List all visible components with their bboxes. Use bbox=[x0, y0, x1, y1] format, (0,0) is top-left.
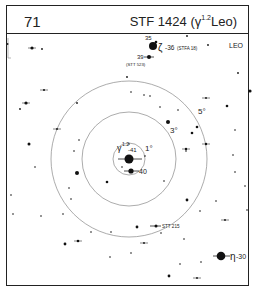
star-39[interactable] bbox=[144, 55, 154, 59]
field-star bbox=[221, 219, 229, 221]
field-star bbox=[232, 154, 234, 156]
field-star bbox=[193, 277, 201, 279]
field-star bbox=[179, 263, 181, 265]
field-star bbox=[53, 128, 61, 130]
field-star bbox=[40, 215, 42, 217]
field-star bbox=[126, 76, 128, 78]
field-star bbox=[74, 240, 82, 243]
field-star bbox=[28, 46, 36, 49]
ring-label-3: 3° bbox=[170, 126, 178, 135]
svg-text:(STT 523): (STT 523) bbox=[126, 62, 146, 67]
field-star bbox=[234, 129, 236, 131]
field-star bbox=[41, 48, 43, 50]
stt215-star[interactable] bbox=[150, 225, 161, 228]
eta-label: η bbox=[230, 251, 236, 262]
field-star bbox=[166, 120, 170, 124]
star-map: γ 1.2 -41 40 ζ -36 (STFA 18) 35 39 (STT … bbox=[0, 0, 253, 290]
field-star bbox=[182, 148, 190, 150]
field-star bbox=[149, 95, 151, 97]
field-star bbox=[73, 150, 75, 152]
edge-bracket bbox=[8, 38, 11, 58]
field-star bbox=[121, 166, 123, 168]
field-star bbox=[196, 126, 199, 129]
field-star bbox=[246, 209, 248, 211]
svg-text:35: 35 bbox=[145, 35, 152, 41]
field-star bbox=[75, 171, 79, 175]
field-star bbox=[226, 105, 229, 108]
field-star bbox=[191, 132, 194, 135]
field-star bbox=[168, 275, 171, 278]
constellation-label: LEO bbox=[229, 42, 244, 49]
field-star bbox=[199, 210, 201, 212]
field-star bbox=[22, 101, 30, 104]
field-star bbox=[163, 180, 165, 182]
field-star bbox=[136, 226, 139, 229]
ring-label-1: 1° bbox=[145, 144, 153, 153]
field-star bbox=[130, 91, 132, 93]
field-star bbox=[244, 185, 246, 187]
field-star bbox=[200, 261, 202, 263]
field-star bbox=[64, 243, 67, 246]
field-star bbox=[248, 89, 251, 92]
field-star bbox=[144, 155, 146, 157]
field-star bbox=[202, 143, 210, 145]
field-star bbox=[110, 231, 112, 233]
field-star bbox=[202, 97, 210, 99]
field-star bbox=[28, 143, 31, 146]
zeta-label: ζ bbox=[158, 42, 163, 54]
svg-text:-30: -30 bbox=[236, 253, 246, 260]
svg-text:39: 39 bbox=[137, 54, 144, 60]
field-star bbox=[185, 150, 187, 152]
field-star bbox=[12, 213, 14, 215]
field-star bbox=[177, 109, 179, 111]
field-star bbox=[10, 194, 12, 196]
field-star bbox=[237, 72, 239, 74]
field-star bbox=[160, 232, 162, 234]
field-star bbox=[130, 252, 132, 254]
field-star bbox=[159, 106, 161, 108]
field-star bbox=[109, 256, 111, 258]
zeta-leo-star[interactable] bbox=[149, 41, 157, 50]
field-star bbox=[19, 108, 21, 110]
eta-leo-star[interactable] bbox=[213, 252, 230, 261]
field-star bbox=[140, 242, 148, 244]
ring-label-5: 5° bbox=[198, 107, 206, 116]
svg-text:-36: -36 bbox=[165, 44, 175, 51]
field-star bbox=[215, 200, 217, 202]
field-star bbox=[62, 213, 64, 215]
field-star bbox=[207, 44, 209, 46]
field-star bbox=[234, 171, 236, 173]
field-star bbox=[70, 198, 72, 200]
field-star bbox=[183, 238, 185, 240]
field-star bbox=[68, 187, 70, 189]
field-star bbox=[143, 94, 145, 96]
field-star bbox=[186, 35, 188, 37]
field-star bbox=[76, 102, 78, 104]
svg-text:-41: -41 bbox=[128, 147, 137, 153]
svg-text:STT 215: STT 215 bbox=[162, 224, 180, 229]
field-star bbox=[34, 166, 36, 168]
gamma-leo-star[interactable] bbox=[118, 155, 142, 164]
svg-text:40: 40 bbox=[139, 168, 147, 175]
field-star bbox=[78, 139, 80, 141]
field-star bbox=[90, 231, 92, 233]
field-star bbox=[106, 181, 109, 184]
field-star bbox=[40, 89, 48, 91]
field-star bbox=[186, 199, 189, 202]
svg-text:(STFA 18): (STFA 18) bbox=[177, 46, 198, 51]
